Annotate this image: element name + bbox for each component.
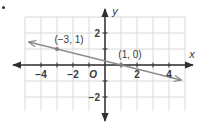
point-label: (1, 0) (118, 49, 141, 60)
y-tick-label: −2 (89, 92, 101, 103)
y-axis-label: y (111, 5, 119, 17)
x-tick-label: 4 (166, 69, 172, 80)
x-axis-label: x (188, 48, 195, 60)
coordinate-plane: −4−2242−2Oxy(−3, 1)(1, 0) (0, 0, 202, 126)
x-tick-label: 2 (134, 69, 140, 80)
origin-label: O (89, 69, 97, 80)
x-tick-label: −4 (35, 69, 47, 80)
data-point (119, 63, 123, 67)
y-tick-label: 2 (94, 28, 100, 39)
x-tick-label: −2 (67, 69, 79, 80)
data-point (55, 47, 59, 51)
axes (13, 9, 193, 121)
point-label: (−3, 1) (54, 34, 83, 45)
labels: −4−2242−2Oxy(−3, 1)(1, 0) (35, 5, 195, 103)
